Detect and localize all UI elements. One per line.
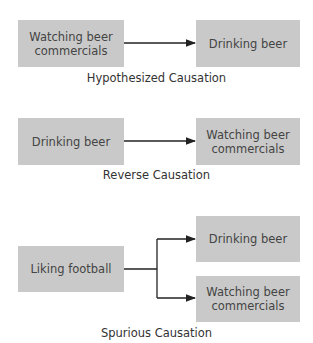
node-liking-football: Liking football	[18, 246, 124, 292]
caption-hypothesized: Hypothesized Causation	[0, 71, 313, 85]
node-drinking-beer-2: Drinking beer	[18, 118, 124, 165]
node-drinking-beer-1: Drinking beer	[196, 20, 300, 67]
node-drinking-beer-3: Drinking beer	[196, 216, 300, 262]
node-watching-commercials-3: Watching beer commercials	[196, 276, 300, 322]
caption-spurious: Spurious Causation	[0, 326, 313, 340]
node-watching-commercials-1: Watching beer commercials	[18, 20, 124, 67]
node-watching-commercials-2: Watching beer commercials	[196, 118, 300, 165]
caption-reverse: Reverse Causation	[0, 168, 313, 182]
